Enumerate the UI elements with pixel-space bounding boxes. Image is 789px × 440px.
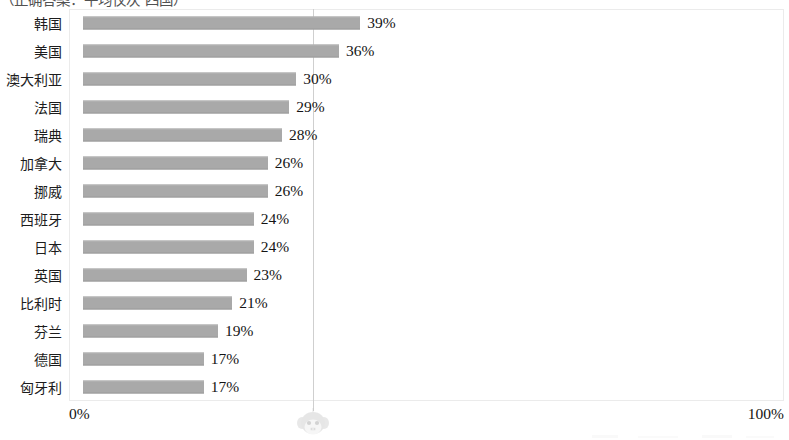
category-label: 法国 [0, 97, 62, 117]
category-label: 日本 [0, 237, 62, 257]
bar-value-label: 17% [211, 350, 239, 368]
category-label: 加拿大 [0, 153, 62, 173]
bar-value-label: 29% [296, 98, 324, 116]
bar-value-label: 26% [275, 182, 303, 200]
bar [83, 101, 289, 114]
category-label: 美国 [0, 41, 62, 61]
bar-row: 德国17% [0, 345, 789, 373]
bar-row: 匈牙利17% [0, 373, 789, 401]
bar-track [83, 73, 296, 86]
bar-row: 挪威26% [0, 177, 789, 205]
bar [83, 297, 232, 310]
bar-row: 日本24% [0, 233, 789, 261]
bar-row: 加拿大26% [0, 149, 789, 177]
bar [83, 241, 254, 254]
bar [83, 157, 268, 170]
bar [83, 185, 268, 198]
bar-track [83, 269, 247, 282]
monkey-face-watermark-icon [296, 408, 330, 438]
bar-track [83, 101, 289, 114]
faint-artifact-marks [590, 428, 780, 438]
category-label: 瑞典 [0, 125, 62, 145]
bar [83, 381, 204, 394]
bar [83, 45, 339, 58]
bar-row: 芬兰19% [0, 317, 789, 345]
bar-value-label: 24% [261, 238, 289, 256]
bar-track [83, 45, 339, 58]
bar [83, 353, 204, 366]
bar-rows-container: 韩国39%美国36%澳大利亚30%法国29%瑞典28%加拿大26%挪威26%西班… [0, 9, 789, 401]
bar-value-label: 19% [225, 322, 253, 340]
bar-row: 西班牙24% [0, 205, 789, 233]
bar-value-label: 26% [275, 154, 303, 172]
bar-row: 美国36% [0, 37, 789, 65]
bar-value-label: 21% [239, 294, 267, 312]
bar-track [83, 213, 254, 226]
bar-value-label: 17% [211, 378, 239, 396]
bar-value-label: 24% [261, 210, 289, 228]
x-axis-min-label: 0% [69, 405, 90, 423]
bar-value-label: 23% [254, 266, 282, 284]
bar-value-label: 36% [346, 42, 374, 60]
bar [83, 325, 218, 338]
category-label: 匈牙利 [0, 377, 62, 397]
bar-row: 澳大利亚30% [0, 65, 789, 93]
bar-chart-figure: （正确答案：平均仅次 四国） 韩国39%美国36%澳大利亚30%法国29%瑞典2… [0, 0, 789, 440]
bar-row: 韩国39% [0, 9, 789, 37]
bar [83, 213, 254, 226]
category-label: 芬兰 [0, 321, 62, 341]
bar [83, 129, 282, 142]
category-label: 韩国 [0, 13, 62, 33]
bar [83, 73, 296, 86]
category-label: 挪威 [0, 181, 62, 201]
bar-track [83, 297, 232, 310]
x-axis: 0% 100% [69, 405, 784, 427]
category-label: 德国 [0, 349, 62, 369]
bar-value-label: 28% [289, 126, 317, 144]
chart-caption: （正确答案：平均仅次 四国） [0, 0, 300, 9]
bar-track [83, 241, 254, 254]
bar-value-label: 30% [303, 70, 331, 88]
category-label: 澳大利亚 [0, 69, 62, 89]
x-axis-max-label: 100% [748, 405, 784, 423]
bar-track [83, 17, 360, 30]
bar-row: 英国23% [0, 261, 789, 289]
bar-row: 法国29% [0, 93, 789, 121]
bar-row: 比利时21% [0, 289, 789, 317]
bar-track [83, 353, 204, 366]
bar-track [83, 325, 218, 338]
bar [83, 17, 360, 30]
bar-value-label: 39% [367, 14, 395, 32]
category-label: 比利时 [0, 293, 62, 313]
bar [83, 269, 247, 282]
bar-track [83, 381, 204, 394]
category-label: 英国 [0, 265, 62, 285]
bar-row: 瑞典28% [0, 121, 789, 149]
bar-track [83, 129, 282, 142]
category-label: 西班牙 [0, 209, 62, 229]
bar-track [83, 185, 268, 198]
bar-track [83, 157, 268, 170]
